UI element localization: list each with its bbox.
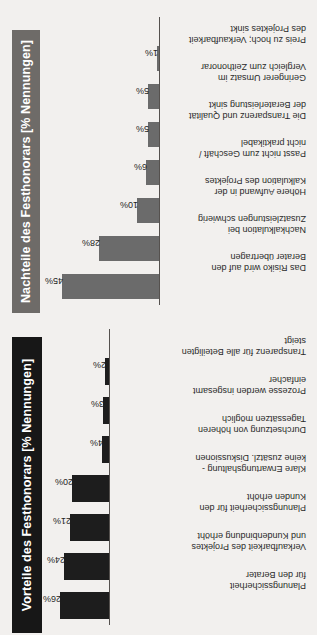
category-label: Klare Erwartungshaltung - keine zusätzl.… [116,452,306,474]
bar [148,84,159,109]
bar-value-label: 24% [47,555,65,565]
category-label: Planungssicherheit für den Kunden erhöht [116,491,306,513]
bar-value-label: 28% [82,238,100,248]
chart-nachteile-plot: 45%28%10%6%5%5%1% [52,17,160,305]
category-label: Geringerer Umsatz im Vergleich zum Zeith… [166,61,306,83]
chart-nachteile-category-labels: Das Risiko wird auf den Berater übertrag… [166,17,311,305]
chart-nachteile: Nachteile des Festhonorars [% Nennungen]… [0,8,317,313]
bar-value-label: 10% [120,200,138,210]
category-label: Das Risiko wird auf den Berater übertrag… [166,251,306,273]
bar [148,122,159,147]
chart-vorteile-title-box: Vorteile des Festhonorars [% Nennungen] [12,337,42,633]
chart-vorteile-category-labels: Planungssicherheit für den BeraterVerkau… [116,329,312,625]
bar-value-label: 20% [55,477,73,487]
bar [64,553,109,580]
bar-value-label: 26% [43,594,61,604]
bar [146,160,159,185]
category-label: Passt nicht zum Geschäft / nicht praktik… [166,137,306,159]
bar [60,592,109,619]
bar [137,198,159,223]
chart-nachteile-bars: 45%28%10%6%5%5%1% [52,17,160,305]
bar-value-label: 5% [136,124,149,134]
chart-vorteile-plot: 26%24%21%20%4%3%2% [54,329,110,625]
category-label: Transparenz für alle Beteiligten steigt [116,335,306,357]
bar-value-label: 2% [93,360,106,370]
category-label: Die Transparenz und Qualität der Berater… [166,99,306,121]
chart-vorteile-title: Vorteile des Festhonorars [% Nennungen] [21,359,34,611]
category-label: Planungssicherheit für den Berater [116,569,306,591]
category-label: Preis zu hoch; Verkaufbarkeit des Projek… [166,23,306,45]
category-label: Nachkalkulation bei Zusatzleistungen sch… [166,213,306,235]
bar-value-label: 3% [91,399,104,409]
chart-vorteile-bars: 26%24%21%20%4%3%2% [54,329,110,625]
category-label: Höhere Aufwand in der Kalkulation des Pr… [166,175,306,197]
bar-value-label: 21% [53,516,71,526]
bar-value-label: 5% [136,86,149,96]
bar [70,514,109,541]
bar-value-label: 1% [145,48,158,58]
category-label: Verkaufbarkeit des Projektes und Kundenb… [116,530,306,552]
chart-nachteile-title-box: Nachteile des Festhonorars [% Nennungen] [12,30,40,313]
bar-value-label: 6% [134,162,147,172]
chart-nachteile-title: Nachteile des Festhonorars [% Nennungen] [20,40,33,303]
bar [102,436,109,463]
bar [62,274,159,299]
bar-value-label: 4% [90,438,103,448]
document-page: Nachteile des Festhonorars [% Nennungen]… [0,0,317,635]
chart-vorteile: Vorteile des Festhonorars [% Nennungen] … [0,318,317,633]
bar [72,475,109,502]
category-label: Durchsetzung von höheren Tagessätzen mög… [116,413,306,435]
category-label: Prozesse werden insgesamt einfacher [116,374,306,396]
bar [99,236,159,261]
bar-value-label: 45% [45,276,63,286]
